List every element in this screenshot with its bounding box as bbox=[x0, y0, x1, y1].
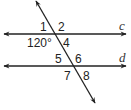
angle-2-label: 2 bbox=[58, 20, 65, 34]
angle-4-label: 4 bbox=[63, 36, 70, 50]
angle-5-label: 5 bbox=[55, 52, 62, 66]
parallel-lines-diagram: c d 1 2 120° 4 5 6 7 8 bbox=[0, 0, 131, 110]
angle-7-label: 7 bbox=[64, 69, 71, 83]
angle-6-label: 6 bbox=[75, 52, 82, 66]
line-d-label: d bbox=[119, 50, 126, 65]
transversal-line bbox=[36, 1, 95, 103]
angle-3-label-120: 120° bbox=[27, 36, 52, 50]
angle-8-label: 8 bbox=[83, 69, 90, 83]
angle-1-label: 1 bbox=[40, 20, 47, 34]
line-c-label: c bbox=[119, 18, 125, 33]
